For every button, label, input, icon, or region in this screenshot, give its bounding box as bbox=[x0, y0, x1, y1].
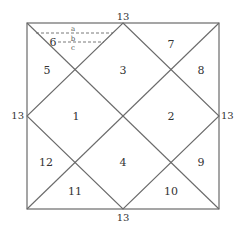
edge-label-right: 13 bbox=[221, 110, 234, 121]
house-6: 6 bbox=[50, 36, 57, 49]
house-8: 8 bbox=[198, 64, 205, 77]
house-4: 4 bbox=[120, 156, 127, 169]
marker-c: c bbox=[71, 44, 75, 52]
house-9: 9 bbox=[198, 156, 205, 169]
edge-label-bottom: 13 bbox=[117, 212, 130, 223]
house-3: 3 bbox=[120, 64, 127, 77]
house-11: 11 bbox=[68, 185, 82, 198]
house-10: 10 bbox=[164, 185, 178, 198]
chart-diagram: a b c 13 13 13 13 1 2 3 4 5 6 7 8 9 10 1… bbox=[0, 0, 241, 234]
house-7: 7 bbox=[168, 38, 175, 51]
house-1: 1 bbox=[73, 110, 80, 123]
marker-a: a bbox=[71, 25, 75, 33]
edge-label-top: 13 bbox=[117, 11, 130, 22]
marker-b: b bbox=[71, 35, 76, 43]
house-5: 5 bbox=[44, 64, 51, 77]
house-2: 2 bbox=[168, 110, 175, 123]
edge-label-left: 13 bbox=[11, 110, 24, 121]
house-12: 12 bbox=[39, 156, 53, 169]
